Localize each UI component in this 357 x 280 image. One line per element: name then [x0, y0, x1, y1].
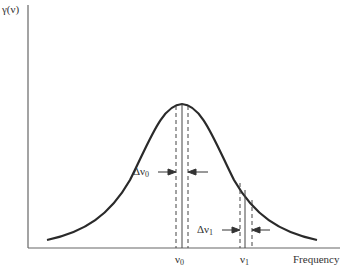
y-axis-label: γ(ν) [2, 3, 19, 15]
delta-nu0-symbol: Δν [133, 165, 145, 177]
nu1-label: ν1 [240, 253, 249, 267]
delta-nu1-symbol: Δν [197, 223, 209, 235]
nu0-label: ν0 [175, 253, 184, 267]
nu1-subscript: 1 [245, 258, 249, 267]
lineshape-diagram [0, 0, 357, 280]
x-axis-label: Frequency [293, 253, 339, 265]
delta-nu1-label: Δν1 [197, 223, 213, 237]
delta-nu0-label: Δν0 [133, 165, 149, 179]
delta-nu1-subscript: 1 [209, 228, 213, 237]
delta-nu0-subscript: 0 [145, 170, 149, 179]
delta-nu0-arrows [158, 169, 208, 175]
nu0-subscript: 0 [180, 258, 184, 267]
delta-nu1-arrows [222, 227, 270, 233]
